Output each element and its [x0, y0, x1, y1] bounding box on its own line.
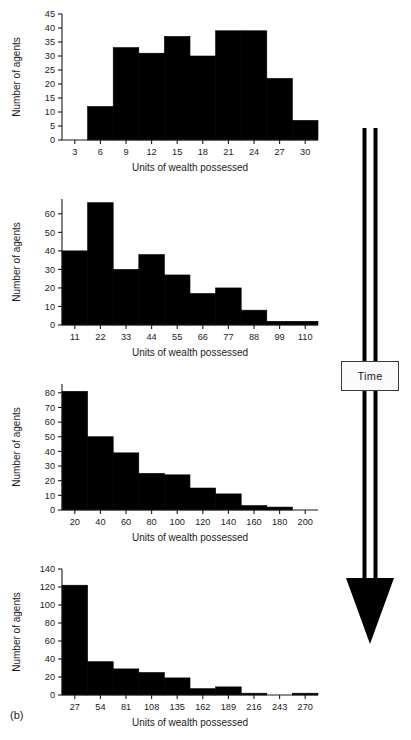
y-tick-label: 40 [45, 246, 55, 256]
x-tick-label: 20 [70, 517, 80, 527]
y-tick-label: 140 [40, 564, 55, 574]
y-axis-title: Number of agents [11, 37, 22, 117]
x-axis-title: Units of wealth possessed [132, 162, 248, 173]
y-tick-label: 30 [45, 265, 55, 275]
y-tick-label: 120 [40, 582, 55, 592]
bar [139, 255, 165, 325]
bar [62, 585, 88, 695]
x-tick-label: 120 [195, 517, 210, 527]
y-tick-label: 40 [45, 23, 55, 33]
x-tick-label: 140 [221, 517, 236, 527]
y-tick-label: 10 [45, 491, 55, 501]
y-tick-label: 0 [50, 690, 55, 700]
bar [267, 78, 293, 140]
histogram-plot-4: 0204060801001201402754811081351621892162… [0, 555, 330, 740]
y-tick-label: 40 [45, 654, 55, 664]
y-tick-label: 80 [45, 388, 55, 398]
y-axis-title: Number of agents [11, 222, 22, 302]
time-label: Time [357, 370, 382, 382]
y-tick-label: 30 [45, 51, 55, 61]
y-tick-label: 20 [45, 79, 55, 89]
bar [241, 310, 267, 325]
x-tick-label: 60 [121, 517, 131, 527]
x-tick-label: 12 [146, 147, 156, 157]
y-tick-label: 50 [45, 228, 55, 238]
x-tick-label: 30 [300, 147, 310, 157]
x-tick-label: 160 [246, 517, 261, 527]
x-tick-label: 77 [223, 332, 233, 342]
y-tick-label: 80 [45, 618, 55, 628]
x-tick-label: 135 [170, 702, 185, 712]
bar [190, 689, 216, 695]
bar [292, 120, 318, 140]
bar-series [62, 203, 318, 325]
histogram-panel-2: 0102030405060112233445566778899110Units … [0, 185, 330, 370]
x-tick-label: 180 [272, 517, 287, 527]
y-tick-label: 15 [45, 93, 55, 103]
bar [139, 673, 165, 696]
y-tick-label: 25 [45, 65, 55, 75]
bar [241, 506, 267, 510]
bar [216, 31, 242, 140]
bar [164, 36, 190, 140]
bar [113, 269, 139, 325]
y-tick-label: 100 [40, 600, 55, 610]
x-tick-label: 21 [223, 147, 233, 157]
x-tick-label: 24 [249, 147, 259, 157]
bar [113, 453, 139, 510]
x-tick-label: 11 [70, 332, 80, 342]
bar [62, 391, 88, 510]
y-tick-label: 60 [45, 636, 55, 646]
x-tick-label: 189 [221, 702, 236, 712]
bar [88, 662, 114, 695]
y-tick-label: 45 [45, 9, 55, 19]
time-label-box: Time [341, 361, 399, 391]
y-tick-label: 20 [45, 672, 55, 682]
histogram-plot-1: 05101520253035404536912151821242730Units… [0, 0, 330, 185]
x-tick-label: 110 [298, 332, 313, 342]
bar-series [88, 31, 318, 140]
histogram-panel-4: 0204060801001201402754811081351621892162… [0, 555, 330, 740]
y-tick-label: 60 [45, 417, 55, 427]
y-tick-label: 20 [45, 476, 55, 486]
y-tick-label: 10 [45, 107, 55, 117]
x-axis-title: Units of wealth possessed [132, 347, 248, 358]
y-tick-label: 0 [50, 505, 55, 515]
bar [88, 203, 114, 325]
y-tick-label: 20 [45, 283, 55, 293]
x-tick-label: 40 [95, 517, 105, 527]
bar [267, 321, 293, 325]
bar [216, 494, 242, 510]
bar [241, 31, 267, 140]
y-tick-label: 60 [45, 209, 55, 219]
bar [139, 53, 165, 140]
x-tick-label: 15 [172, 147, 182, 157]
y-tick-label: 40 [45, 447, 55, 457]
bar [62, 251, 88, 325]
x-tick-label: 108 [144, 702, 159, 712]
bar [190, 294, 216, 326]
bar [190, 56, 216, 140]
bar [164, 275, 190, 325]
y-tick-label: 5 [50, 121, 55, 131]
y-axis-title: Number of agents [11, 592, 22, 672]
y-tick-label: 0 [50, 135, 55, 145]
histogram-panel-1: 05101520253035404536912151821242730Units… [0, 0, 330, 185]
bar [113, 669, 139, 695]
x-tick-label: 9 [123, 147, 128, 157]
histogram-plot-2: 0102030405060112233445566778899110Units … [0, 185, 330, 370]
x-tick-label: 55 [172, 332, 182, 342]
y-tick-label: 0 [50, 320, 55, 330]
x-tick-label: 270 [298, 702, 313, 712]
y-tick-label: 70 [45, 403, 55, 413]
bar [190, 488, 216, 510]
x-tick-label: 243 [272, 702, 287, 712]
histogram-plot-3: 0102030405060708020406080100120140160180… [0, 370, 330, 555]
x-tick-label: 3 [72, 147, 77, 157]
x-tick-label: 88 [249, 332, 259, 342]
bar [216, 288, 242, 325]
x-tick-label: 6 [98, 147, 103, 157]
x-tick-label: 100 [170, 517, 185, 527]
x-axis-title: Units of wealth possessed [132, 717, 248, 728]
x-tick-label: 33 [121, 332, 131, 342]
